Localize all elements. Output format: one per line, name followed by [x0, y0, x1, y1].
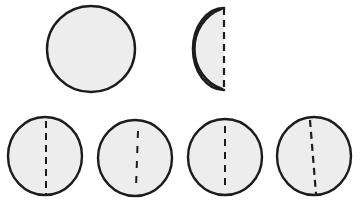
figure-svg — [0, 0, 362, 204]
bottom-circle-2 — [98, 120, 172, 196]
bottom-circle-1 — [8, 117, 82, 195]
figure-canvas — [0, 0, 362, 204]
half-disc-group — [193, 8, 224, 90]
bottom-circle-row — [8, 117, 351, 196]
bottom-circle-3 — [188, 119, 262, 195]
top-circle-group — [47, 6, 135, 92]
bottom-circle-4 — [277, 117, 351, 195]
half-disc-fill — [193, 8, 224, 90]
